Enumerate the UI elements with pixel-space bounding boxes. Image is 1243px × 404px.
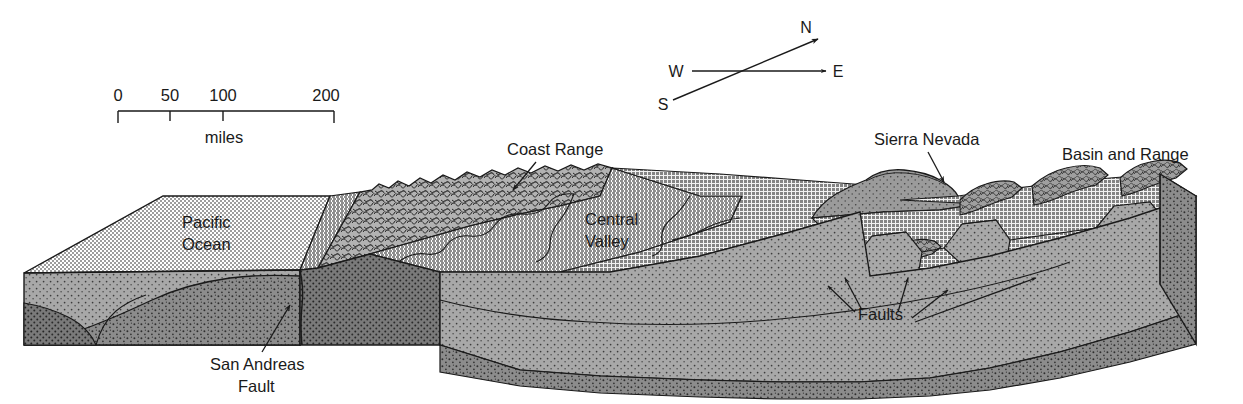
surface-pacific-ocean	[24, 196, 330, 273]
label-pacific-ocean-line1: Pacific	[182, 213, 231, 231]
compass-sn-axis	[673, 39, 818, 100]
scale-bar-rule	[118, 111, 334, 123]
section-san-andreas-block	[300, 254, 440, 345]
scale-tick-label-0: 0	[113, 86, 122, 104]
label-san-andreas-line1: San Andreas	[210, 355, 305, 373]
label-central-valley-line1: Central	[585, 210, 638, 228]
label-coast-range: Coast Range	[507, 140, 603, 158]
compass-label-east: E	[833, 63, 844, 80]
compass-rose: N S E W	[658, 19, 844, 113]
compass-label-north: N	[800, 19, 812, 36]
block-diagram-figure: 0 50 100 200 miles N S E W	[0, 0, 1243, 404]
label-sierra-nevada: Sierra Nevada	[874, 130, 980, 148]
compass-label-south: S	[658, 96, 669, 113]
label-faults: Faults	[858, 305, 903, 323]
label-central-valley-line2: Valley	[585, 232, 629, 250]
diagram-canvas: 0 50 100 200 miles N S E W	[0, 0, 1243, 404]
label-basin-and-range: Basin and Range	[1062, 145, 1189, 163]
label-san-andreas-line2: Fault	[238, 377, 275, 395]
label-pacific-ocean-line2: Ocean	[182, 235, 231, 253]
scale-tick-label-200: 200	[312, 86, 340, 104]
scale-unit-label: miles	[205, 128, 244, 146]
scale-tick-label-50: 50	[161, 86, 179, 104]
compass-label-west: W	[668, 63, 684, 80]
scale-bar: 0 50 100 200 miles	[113, 86, 339, 146]
scale-tick-label-100: 100	[209, 86, 237, 104]
